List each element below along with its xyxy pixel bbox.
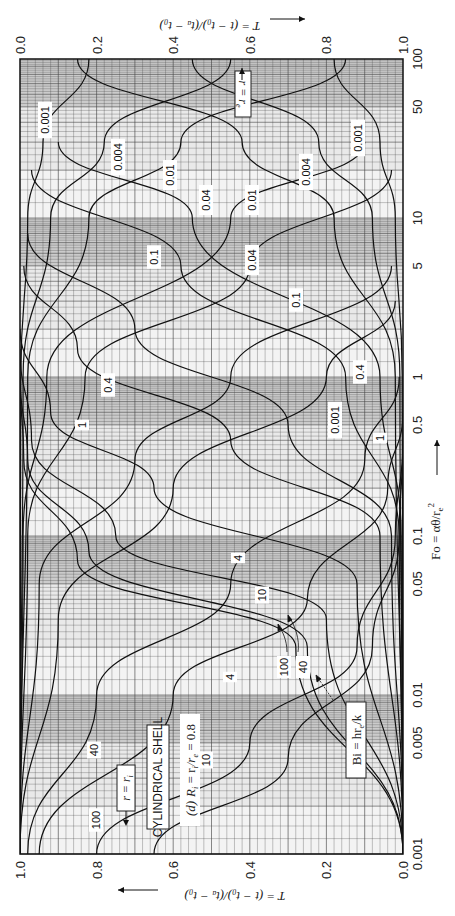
bi-text: Bi = hr [349,728,364,766]
svg-text:100: 100 [90,811,102,829]
svg-text:1.0: 1.0 [13,861,28,879]
fo-tick-label: 10 [410,211,425,225]
fo-tick-label: 5 [410,262,425,269]
r-re-text: r = r [236,81,250,105]
svg-text:10: 10 [256,589,268,601]
svg-text:5: 5 [410,262,425,269]
svg-text:1.0: 1.0 [396,36,411,54]
svg-text:0.01: 0.01 [410,682,425,707]
svg-text:10: 10 [410,211,425,225]
panel-label: (d) [183,801,198,816]
svg-text:0.4: 0.4 [102,377,114,392]
svg-text:0.0: 0.0 [13,36,28,54]
top-axis-arrow-icon [270,16,305,22]
svg-text:100: 100 [410,48,425,70]
curve-value-label: 40 [87,742,101,759]
svg-text:0.04: 0.04 [200,189,212,210]
curve-value-label: 0.001 [328,402,342,439]
svg-text:1: 1 [76,422,88,428]
svg-text:0.01: 0.01 [246,189,258,210]
svg-text:0.4: 0.4 [243,861,258,879]
fo-tick-label: 0.05 [410,571,425,596]
svg-text:0.01: 0.01 [164,164,176,185]
curve-value-label: 0.001 [351,120,365,157]
curve-value-label: 0.01 [163,160,177,190]
outer-t-tick-label: 0.4 [166,36,181,54]
curve-value-label: 0.04 [245,245,259,275]
svg-text:0.1: 0.1 [410,527,425,545]
svg-text:0.05: 0.05 [410,571,425,596]
svg-text:0.2: 0.2 [90,36,105,54]
curve-value-label: 10 [199,752,213,769]
svg-text:Bi = hre/k: Bi = hre/k [349,714,366,765]
fo-tick-label: 1 [410,373,425,380]
inner-t-tick-label: 0.0 [396,861,411,879]
svg-text:0.005: 0.005 [410,727,425,760]
svg-text:0.5: 0.5 [410,416,425,434]
svg-text:0.004: 0.004 [112,143,124,171]
svg-text:40: 40 [88,744,100,756]
curve-value-label: 0.1 [289,288,303,312]
svg-text:r = ri: r = ri [119,775,135,801]
curve-value-label: 0.4 [353,360,367,384]
inner-t-tick-label: 0.8 [90,861,105,879]
ratio-eq: = r [183,768,198,787]
ratio-R: R [183,789,198,798]
inner-t-tick-label: 0.6 [166,861,181,879]
bottom-axis-arrow-icon [118,887,158,893]
curve-value-label: 0.04 [199,185,213,215]
svg-text:50: 50 [410,100,425,114]
inner-t-tick-label: 0.4 [243,861,258,879]
svg-text:0.2: 0.2 [319,861,334,879]
shell-title-box: CYLINDRICAL SHELL [147,717,169,838]
svg-text:1: 1 [374,435,386,441]
svg-text:0.8: 0.8 [90,861,105,879]
svg-text:0.004: 0.004 [300,158,312,186]
outer-t-tick-label: 1.0 [396,36,411,54]
svg-text:4: 4 [232,555,244,561]
curve-value-label: 10 [255,587,269,604]
r-re-sub: e [234,104,243,108]
svg-text:0.6: 0.6 [166,861,181,879]
svg-text:100: 100 [278,658,290,676]
curve-value-label: 0.004 [111,139,125,176]
svg-text:0.8: 0.8 [319,36,334,54]
heat-conduction-chart: 0.0010.0050.010.050.10.51510501001.00.80… [0,0,455,916]
inner-t-tick-label: 1.0 [13,861,28,879]
svg-text:40: 40 [297,661,309,673]
curve-value-label: 0.4 [101,373,115,397]
svg-text:0.001: 0.001 [39,106,51,134]
svg-text:0.0: 0.0 [396,861,411,879]
svg-text:1: 1 [410,373,425,380]
svg-text:(d)Ri = ri/re = 0.8: (d)Ri = ri/re = 0.8 [183,724,200,816]
svg-text:0.1: 0.1 [148,249,160,264]
outer-t-tick-label: 0.6 [243,36,258,54]
r-ri-marker: r = ri [117,765,135,811]
r-ri-sub: i [126,775,135,777]
ratio-label: (d)Ri = ri/re = 0.8 [180,714,200,826]
svg-text:0.6: 0.6 [243,36,258,54]
svg-text:0.4: 0.4 [166,36,181,54]
curve-value-label: 100 [277,656,291,678]
outer-t-tick-label: 0.2 [90,36,105,54]
ratio-value: = 0.8 [183,724,198,754]
fo-title-sup: 2 [426,503,436,508]
svg-text:0.4: 0.4 [354,364,366,379]
svg-text:0.001: 0.001 [410,838,425,871]
fo-axis-arrow-icon [434,440,440,475]
bi-tail: /k [349,714,364,725]
curve-value-label: 1 [75,420,89,431]
r-ri-text: r = r [119,777,133,801]
curve-value-label: 4 [231,553,245,564]
fo-tick-label: 50 [410,100,425,114]
curve-value-label: 0.1 [147,245,161,269]
fo-tick-label: 0.01 [410,682,425,707]
fo-title-main: Fo = αθ/r [428,511,443,560]
svg-text:10: 10 [200,754,212,766]
curve-value-label: 4 [223,672,237,683]
svg-text:4: 4 [224,674,236,680]
svg-text:0.04: 0.04 [246,249,258,270]
svg-text:0.001: 0.001 [352,124,364,152]
svg-text:Fo = αθ/re2: Fo = αθ/re2 [426,503,445,560]
curve-value-label: 0.001 [38,102,52,139]
